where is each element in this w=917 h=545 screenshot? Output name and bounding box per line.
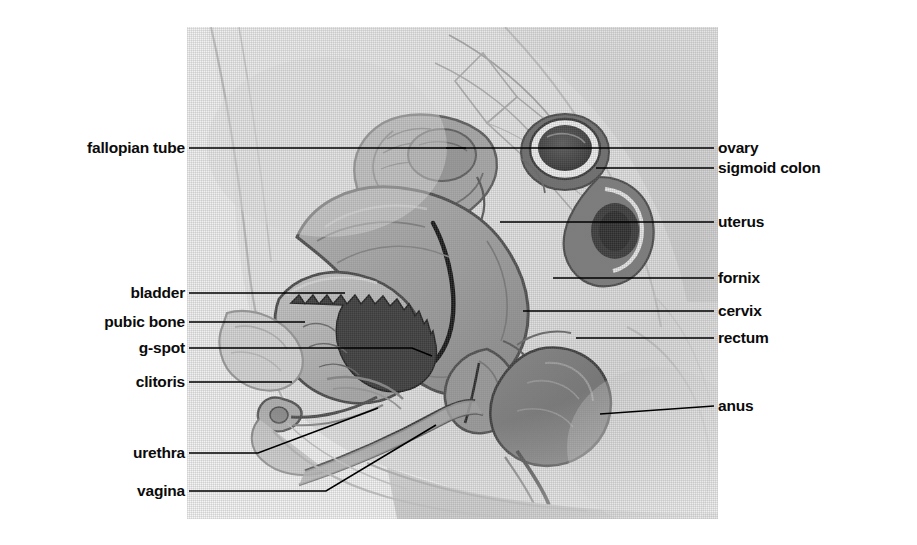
label-rectum: rectum xyxy=(718,330,768,346)
label-anus: anus xyxy=(718,398,753,414)
label-uterus: uterus xyxy=(718,214,764,230)
label-g-spot: g-spot xyxy=(139,340,185,356)
ovary-structure xyxy=(521,114,609,190)
label-cervix: cervix xyxy=(718,303,762,319)
label-fornix: fornix xyxy=(718,270,760,286)
label-fallopian-tube: fallopian tube xyxy=(87,140,185,156)
label-ovary: ovary xyxy=(718,140,758,156)
anatomy-illustration-plate xyxy=(187,27,718,519)
label-pubic-bone: pubic bone xyxy=(104,314,185,330)
label-urethra: urethra xyxy=(133,445,185,461)
anatomy-artwork xyxy=(187,27,718,519)
label-vagina: vagina xyxy=(137,483,185,499)
label-clitoris: clitoris xyxy=(136,374,185,390)
diagram-page: fallopian tube bladder pubic bone g-spot… xyxy=(0,0,917,545)
label-bladder: bladder xyxy=(130,285,185,301)
label-sigmoid-colon: sigmoid colon xyxy=(718,160,820,176)
